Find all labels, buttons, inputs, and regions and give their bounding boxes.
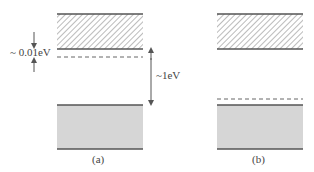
valence-band-b (217, 105, 303, 149)
panel-a-label: (a) (92, 153, 104, 165)
panel-b-label: (b) (252, 153, 265, 165)
small-gap-label: ~ 0.01eV (10, 46, 51, 58)
band-gap-label: ~1eV (156, 69, 180, 81)
conduction-band-b (217, 14, 303, 49)
band-diagram (0, 0, 314, 172)
valence-band-a (57, 105, 143, 149)
panel-a (34, 14, 151, 149)
conduction-band-a (57, 14, 143, 49)
panel-b (217, 14, 303, 149)
